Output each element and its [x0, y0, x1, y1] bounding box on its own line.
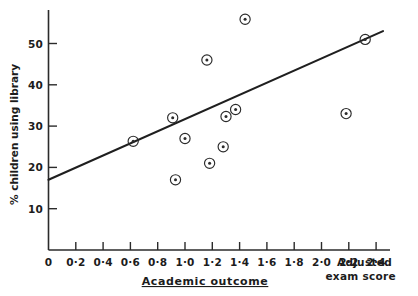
x-tick-label-2-0: 2·0 [312, 256, 331, 268]
data-point [240, 14, 250, 24]
x-tick-label-1-6: 1·6 [257, 256, 276, 268]
data-point [231, 104, 241, 114]
data-point [205, 158, 215, 168]
x-tick-label-1-2: 1·2 [203, 256, 222, 268]
x-tick-label-1-0: 1·0 [175, 256, 194, 268]
x-tick-label-0: 0 [45, 256, 53, 268]
corner-label-line1: Adjusted [337, 256, 392, 268]
x-tick-label-0-2: 0·2 [66, 256, 85, 268]
x-tick-label-0-6: 0·6 [121, 256, 140, 268]
y-tick-label-10: 10 [28, 203, 43, 215]
y-axis-label: % children using library [8, 64, 20, 205]
scatter-chart: 50 40 30 20 10 0 0·2 0·4 0·6 0 [0, 0, 418, 296]
x-tick-labels: 0 0·2 0·4 0·6 0·8 1·0 1·2 1·4 1·6 1·8 2·… [45, 256, 386, 268]
y-tick-label-40: 40 [28, 79, 43, 91]
x-axis-label: Academic outcome [142, 275, 269, 288]
data-point [168, 113, 178, 123]
y-tick-label-20: 20 [28, 161, 43, 173]
axes [49, 10, 391, 250]
data-point [218, 142, 228, 152]
chart-canvas: 50 40 30 20 10 0 0·2 0·4 0·6 0 [0, 0, 418, 296]
x-tick-label-1-4: 1·4 [230, 256, 249, 268]
data-point [221, 111, 231, 121]
y-tick-label-30: 30 [28, 120, 43, 132]
x-ticks [76, 242, 376, 250]
data-point [180, 133, 190, 143]
x-tick-label-0-8: 0·8 [148, 256, 167, 268]
data-point [360, 34, 370, 44]
y-ticks [49, 44, 58, 209]
x-tick-label-1-8: 1·8 [285, 256, 304, 268]
data-point [202, 55, 212, 65]
x-tick-label-0-4: 0·4 [93, 256, 112, 268]
data-point [170, 175, 180, 185]
y-tick-labels: 50 40 30 20 10 [28, 38, 43, 215]
y-tick-label-50: 50 [28, 38, 43, 50]
corner-label-line2: exam score [325, 270, 396, 282]
data-point [341, 109, 351, 119]
trend-line [49, 31, 384, 180]
data-points [128, 14, 370, 185]
